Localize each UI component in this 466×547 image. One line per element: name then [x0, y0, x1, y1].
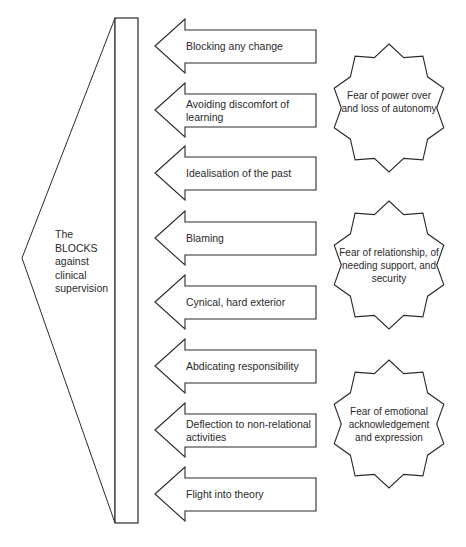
center-label: The BLOCKS against clinical supervision — [55, 228, 115, 296]
block-arrow-label: Abdicating responsibility — [186, 350, 314, 383]
center-label-line: The — [55, 228, 115, 242]
block-arrow-label: Avoiding discomfort of learning — [186, 94, 314, 127]
block-arrow-label: Blocking any change — [186, 30, 314, 63]
fear-star-label: Fear of power over and loss of autonomy — [339, 89, 439, 115]
block-arrow-label: Flight into theory — [186, 478, 314, 511]
blocks-bar — [115, 18, 138, 523]
center-label-line: supervision — [55, 282, 115, 296]
center-label-line: clinical — [55, 269, 115, 283]
block-arrow-label: Deflection to non-relational activities — [186, 414, 314, 447]
block-arrow-label: Idealisation of the past — [186, 157, 314, 190]
center-label-line: BLOCKS — [55, 242, 115, 256]
fear-star-label: Fear of relationship, of needing support… — [339, 246, 439, 285]
fear-star-label: Fear of emotional acknowledgement and ex… — [339, 405, 439, 444]
block-arrow-label: Cynical, hard exterior — [186, 286, 314, 319]
center-label-line: against — [55, 255, 115, 269]
block-arrow-label: Blaming — [186, 222, 314, 255]
